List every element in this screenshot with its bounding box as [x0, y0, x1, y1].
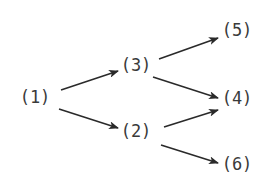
tree-diagram: (1)(3)(2)(5)(4)(6): [0, 0, 264, 189]
node-1: (1): [20, 87, 51, 107]
arrow-3-to-4: [153, 77, 218, 98]
node-6: (6): [222, 154, 253, 174]
arrow-3-to-5: [159, 38, 218, 59]
node-3: (3): [121, 55, 152, 75]
arrow-1-to-2: [59, 109, 118, 128]
arrow-2-to-6: [161, 145, 218, 163]
arrow-2-to-4: [164, 110, 218, 127]
node-2: (2): [121, 121, 152, 141]
node-5: (5): [222, 20, 253, 40]
node-4: (4): [222, 88, 253, 108]
arrow-1-to-3: [61, 71, 118, 90]
